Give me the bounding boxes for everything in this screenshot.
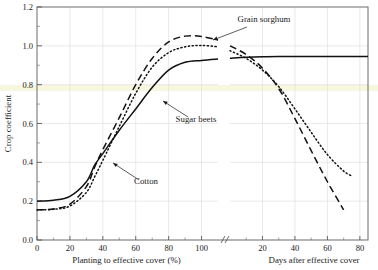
leader-line-grain-sorghum — [213, 27, 247, 40]
y-tick-label-2: 0.4 — [22, 157, 33, 167]
x-axis-left-title: Planting to effective cover (%) — [72, 255, 180, 265]
x-left-tick-label-4: 80 — [164, 243, 173, 253]
curve-sugar-beets-phase1 — [37, 59, 218, 201]
x-right-tick-label-0: 20 — [258, 243, 267, 253]
x-right-tick-label-2: 60 — [323, 243, 332, 253]
x-left-tick-label-2: 40 — [99, 243, 108, 253]
curve-cotton-phase2 — [230, 51, 352, 176]
x-right-tick-label-1: 40 — [291, 243, 300, 253]
y-tick-label-4: 0.8 — [22, 80, 33, 90]
x-left-tick-label-1: 20 — [66, 243, 75, 253]
curve-cotton-phase1 — [37, 45, 218, 209]
x-right-tick-label-3: 80 — [356, 243, 365, 253]
annotation-label-grain-sorghum: Grain sorghum — [238, 14, 291, 24]
y-tick-label-6: 1.2 — [22, 2, 33, 12]
arrowhead-cotton — [113, 163, 118, 167]
y-tick-label-5: 1.0 — [22, 41, 33, 51]
chart-canvas: 0.00.20.40.60.81.01.20204060801002040608… — [0, 0, 378, 270]
y-tick-label-3: 0.6 — [22, 119, 33, 129]
arrowhead-grain-sorghum — [213, 37, 218, 41]
y-tick-label-1: 0.2 — [22, 196, 33, 206]
curve-grain-sorghum-phase2 — [230, 46, 344, 210]
annotation-label-sugar-beets: Sugar beets — [176, 114, 217, 124]
x-left-tick-label-0: 0 — [35, 243, 39, 253]
x-left-tick-label-5: 100 — [195, 243, 208, 253]
y-tick-label-0: 0.0 — [22, 235, 33, 245]
arrowhead-sugar-beets — [163, 101, 168, 105]
x-axis-right-title: Days after effective cover — [269, 255, 360, 265]
x-left-tick-label-3: 60 — [131, 243, 140, 253]
figure-crop-coefficient-curves: 0.00.20.40.60.81.01.20204060801002040608… — [0, 0, 378, 270]
annotation-label-cotton: Cotton — [134, 176, 159, 186]
y-axis-title: Crop coefficient — [3, 94, 13, 152]
scan-highlight-band — [0, 85, 378, 91]
